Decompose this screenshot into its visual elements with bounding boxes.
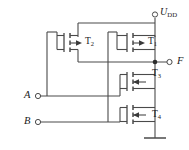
input-a-label: A xyxy=(24,90,30,101)
input-b-net xyxy=(35,32,120,125)
transistor-t2 xyxy=(57,33,82,62)
input-b-terminal-circle xyxy=(35,119,40,124)
output-label: F xyxy=(177,56,183,67)
supply-label: UDD xyxy=(160,7,177,17)
supply-rail-group xyxy=(78,12,158,37)
udd-terminal-circle xyxy=(152,12,157,17)
transistor-t4-label: T4 xyxy=(152,110,161,120)
input-b-label: B xyxy=(24,116,30,127)
transistor-t4 xyxy=(120,89,155,139)
t4-substrate-arrow xyxy=(133,112,139,117)
output-terminal-circle xyxy=(167,59,172,64)
transistor-t3-label: T3 xyxy=(152,69,161,79)
transistor-t2-label: T2 xyxy=(85,37,94,47)
transistor-t1-label: T1 xyxy=(148,37,157,47)
t3-substrate-arrow xyxy=(133,79,139,84)
output-net-group xyxy=(78,59,172,64)
input-a-terminal-circle xyxy=(35,93,40,98)
output-junction-dot xyxy=(153,60,158,65)
circuit-diagram: UDD F A B T1 T2 T3 T4 xyxy=(0,0,189,150)
transistor-t3 xyxy=(120,62,155,91)
